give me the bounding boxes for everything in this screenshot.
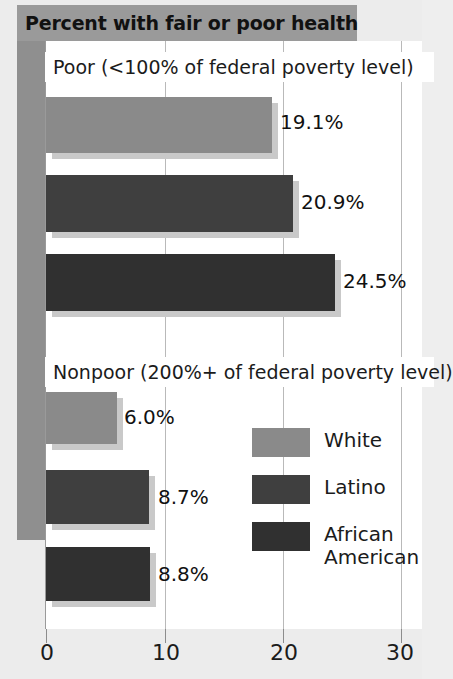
bar-fill [46,175,293,232]
bar-poor-white [46,97,272,153]
xtick-label-10: 10 [152,640,180,665]
legend-swatch-african-american [252,522,310,551]
bar-fill [46,392,117,444]
bar-value-poor-white: 19.1% [280,110,344,134]
bar-poor-african-american [46,254,335,311]
bar-value-poor-african-american: 24.5% [343,269,407,293]
bar-fill [46,547,150,601]
legend-swatch-latino [252,475,310,504]
bar-fill [46,470,149,524]
bar-nonpoor-white [46,392,117,444]
legend: White Latino African American [252,428,419,587]
legend-label-african-american: African American [324,523,419,569]
legend-item-latino: Latino [252,475,419,504]
chart-title: Percent with fair or poor health [17,12,358,34]
bar-poor-latino [46,175,293,232]
bar-value-nonpoor-white: 6.0% [124,405,175,429]
bar-nonpoor-latino [46,470,149,524]
bar-fill [46,254,335,311]
bar-value-nonpoor-latino: 8.7% [158,485,209,509]
legend-label-latino: Latino [324,476,386,499]
group-label-poor: Poor (<100% of federal poverty level) [45,52,434,82]
bar-nonpoor-african-american [46,547,150,601]
legend-swatch-white [252,428,310,457]
xtick-label-20: 20 [270,640,298,665]
xtick-label-30: 30 [386,640,414,665]
bar-fill [46,97,272,153]
legend-item-african-american: African American [252,522,419,569]
group-label-nonpoor: Nonpoor (200%+ of federal poverty level) [45,357,434,387]
xtick-label-0: 0 [40,640,54,665]
legend-label-white: White [324,429,382,452]
chart-title-band: Percent with fair or poor health [17,5,357,41]
bar-value-nonpoor-african-american: 8.8% [158,562,209,586]
legend-item-white: White [252,428,419,457]
bar-value-poor-latino: 20.9% [301,190,365,214]
